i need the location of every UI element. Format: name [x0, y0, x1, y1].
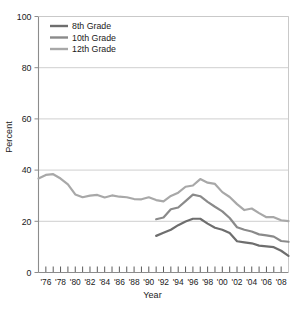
- svg-text:'04: '04: [246, 277, 257, 287]
- svg-text:'96: '96: [187, 277, 198, 287]
- svg-text:'84: '84: [99, 277, 110, 287]
- svg-text:'00: '00: [217, 277, 228, 287]
- svg-text:80: 80: [22, 63, 32, 73]
- svg-text:100: 100: [17, 12, 32, 22]
- svg-text:20: 20: [22, 217, 32, 227]
- series-lines: [39, 174, 289, 256]
- svg-text:'08: '08: [276, 277, 287, 287]
- svg-text:'06: '06: [261, 277, 272, 287]
- svg-text:0: 0: [27, 268, 32, 278]
- x-axis-ticks: '76'78'80'82'84'86'88'90'92'94'96'98'00'…: [40, 267, 287, 287]
- line-chart: Percent Year 020406080100 '76'78'80'82'8…: [0, 0, 305, 310]
- svg-text:'86: '86: [114, 277, 125, 287]
- y-axis-ticks: 020406080100: [17, 12, 39, 278]
- legend: 8th Grade10th Grade12th Grade: [50, 21, 116, 54]
- plot-area: 020406080100 '76'78'80'82'84'86'88'90'92…: [0, 0, 305, 310]
- svg-text:10th Grade: 10th Grade: [72, 33, 116, 43]
- svg-text:60: 60: [22, 114, 32, 124]
- svg-text:12th Grade: 12th Grade: [72, 44, 116, 54]
- plot-frame: [39, 17, 289, 273]
- svg-text:'92: '92: [158, 277, 169, 287]
- svg-text:'02: '02: [232, 277, 243, 287]
- svg-text:40: 40: [22, 165, 32, 175]
- svg-text:'82: '82: [85, 277, 96, 287]
- svg-text:'76: '76: [40, 277, 51, 287]
- svg-text:'98: '98: [202, 277, 213, 287]
- svg-text:'90: '90: [143, 277, 154, 287]
- svg-text:8th Grade: 8th Grade: [72, 21, 111, 31]
- svg-text:'88: '88: [129, 277, 140, 287]
- svg-text:'78: '78: [55, 277, 66, 287]
- svg-text:'94: '94: [173, 277, 184, 287]
- svg-text:'80: '80: [70, 277, 81, 287]
